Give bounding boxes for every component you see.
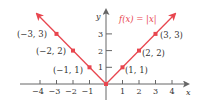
- y-tick-labels: 1 2 3: [98, 30, 103, 72]
- x-axis-label: x: [186, 88, 191, 97]
- function-label: f(x) = |x|: [118, 14, 157, 25]
- point-origin: [104, 82, 108, 86]
- x-tick-label: −3: [49, 87, 61, 96]
- point-2-2: [137, 49, 141, 53]
- x-tick-label: −2: [65, 87, 77, 96]
- y-tick-label: 3: [98, 30, 103, 39]
- abs-value-chart: −4 −3 −2 −1 1 2 3 4 x 1 2 3 y (−3, 3) (−…: [0, 0, 204, 106]
- point-label: (1, 1): [125, 65, 148, 75]
- x-tick-label: 1: [120, 87, 125, 96]
- x-tick-label: 4: [169, 87, 174, 96]
- y-tick-label: 2: [98, 47, 103, 56]
- x-tick-label: 2: [136, 87, 141, 96]
- x-tick-label: 3: [153, 87, 158, 96]
- y-tick-label: 1: [98, 63, 103, 72]
- point-label: (−1, 1): [53, 65, 83, 75]
- x-tick-labels: −4 −3 −2 −1 1 2 3 4: [32, 87, 174, 96]
- y-ticks: [106, 34, 112, 67]
- point-neg2-2: [71, 49, 75, 53]
- point-label: (−3, 3): [17, 29, 47, 39]
- y-axis-label: y: [95, 12, 101, 21]
- point-label: (2, 2): [142, 48, 165, 58]
- x-tick-label: −4: [32, 87, 44, 96]
- point-label: (−2, 2): [36, 46, 66, 56]
- point-label: (3, 3): [160, 30, 183, 40]
- point-3-3: [154, 32, 158, 36]
- x-tick-label: −1: [82, 87, 94, 96]
- point-neg1-1: [88, 65, 92, 69]
- point-neg3-3: [55, 32, 59, 36]
- point-1-1: [121, 65, 125, 69]
